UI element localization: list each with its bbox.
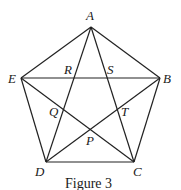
figure-caption: Figure 3	[65, 176, 112, 190]
diagonal-BD	[46, 78, 160, 162]
diagonal-AD	[46, 27, 91, 162]
label-P: P	[85, 133, 94, 148]
side-EA	[21, 27, 91, 78]
label-S: S	[107, 62, 114, 77]
side-AB	[91, 27, 160, 78]
label-C: C	[133, 164, 142, 179]
pentagon-figure: A B C D E R S Q T P Figure 3	[0, 0, 181, 190]
label-B: B	[163, 71, 171, 86]
label-E: E	[7, 71, 16, 86]
side-BC	[134, 78, 160, 162]
label-D: D	[34, 164, 45, 179]
label-A: A	[85, 8, 94, 23]
side-DE	[21, 78, 46, 162]
diagonal-AC	[91, 27, 134, 162]
diagonal-CE	[21, 78, 134, 162]
label-Q: Q	[49, 104, 59, 119]
label-T: T	[121, 104, 129, 119]
label-R: R	[63, 62, 72, 77]
